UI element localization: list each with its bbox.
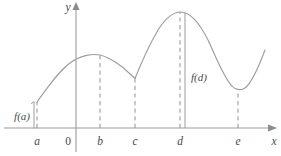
graph-canvas: x y a 0 b c d (0, 0, 281, 156)
f-of-a-bracket-path (32, 102, 35, 129)
drop-lines-group (37, 12, 238, 128)
x-tick-label-c: c (132, 135, 137, 147)
x-axis-label: x (270, 135, 277, 147)
y-axis: y (64, 1, 79, 152)
x-tick-label-a: a (34, 135, 40, 147)
x-tick-label-e: e (235, 135, 240, 147)
function-curve-path (37, 12, 265, 102)
f-of-a-bracket (32, 102, 35, 129)
value-annotations: f(a) f(d) (14, 71, 207, 123)
x-tick-label-d: d (177, 135, 183, 147)
function-graph-figure: x y a 0 b c d (0, 0, 281, 156)
x-tick-label-b: b (97, 135, 103, 147)
x-tick-label-origin: 0 (65, 135, 71, 147)
x-axis-arrow-icon (268, 124, 277, 131)
y-axis-label: y (64, 1, 71, 14)
f-of-a-label: f(a) (14, 110, 30, 123)
x-tick-labels: a 0 b c d e (34, 135, 240, 147)
y-axis-arrow-icon (72, 2, 79, 10)
function-curve (37, 12, 265, 102)
f-of-d-label: f(d) (191, 71, 207, 84)
